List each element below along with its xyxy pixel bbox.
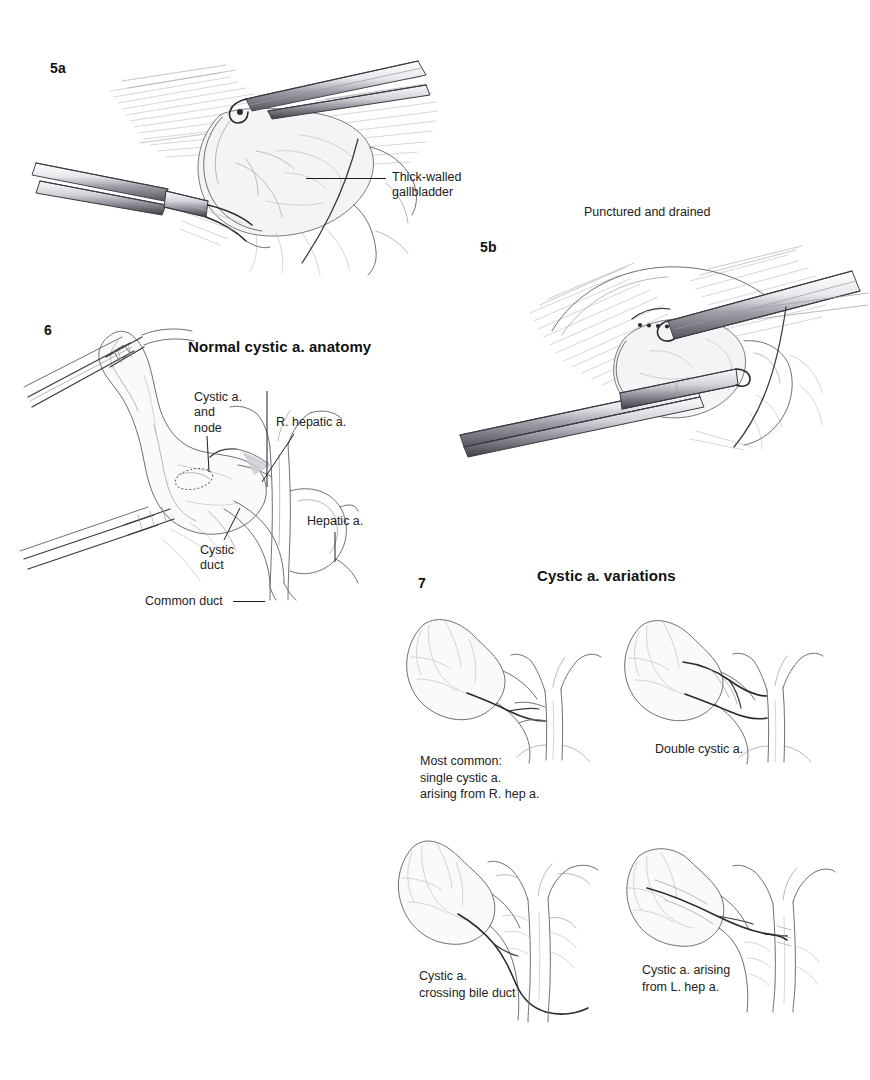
figure-7-variant-1-artwork: [405, 595, 605, 765]
figure-7-variant-3-caption: Cystic a. crossing bile duct: [419, 968, 516, 1001]
fig6-common-duct-leader: [233, 601, 265, 602]
figure-7-number: 7: [418, 575, 426, 592]
figure-7-variant-4-caption: Cystic a. arising from L. hep a.: [642, 962, 730, 995]
figure-6-callout-common-duct: Common duct: [145, 594, 223, 609]
illustration-plate: 5a Thick-walled gallbladder: [0, 0, 870, 1080]
figure-7-variant-2-caption: Double cystic a.: [655, 741, 743, 758]
figure-7-title: Cystic a. variations: [537, 567, 676, 585]
figure-7-variant-1-caption: Most common: single cystic a. arising fr…: [420, 753, 540, 803]
